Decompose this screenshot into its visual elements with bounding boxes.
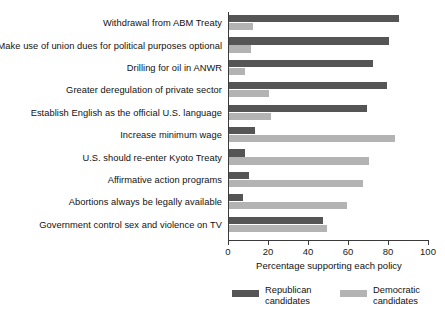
- legend-item-democratic: Democratic candidates: [340, 285, 420, 306]
- category-label: Establish English as the official U.S. l…: [31, 108, 222, 118]
- chart-row: U.S. should re-enter Kyoto Treaty: [0, 146, 445, 168]
- bar-republican: [229, 15, 399, 22]
- chart-row: Increase minimum wage: [0, 124, 445, 146]
- chart-row: Government control sex and violence on T…: [0, 214, 445, 236]
- bar-republican: [229, 172, 249, 179]
- category-label: Increase minimum wage: [120, 130, 222, 140]
- category-label: U.S. should re-enter Kyoto Treaty: [82, 153, 222, 163]
- chart-row: Abortions always be legally available: [0, 191, 445, 213]
- category-label: Withdrawal from ABM Treaty: [103, 18, 222, 28]
- bar-democratic: [229, 202, 347, 209]
- legend-swatch-republican: [232, 290, 259, 297]
- x-axis-line: [228, 240, 429, 241]
- bar-republican: [229, 37, 389, 44]
- bar-democratic: [229, 113, 271, 120]
- chart-row: Withdrawal from ABM Treaty: [0, 12, 445, 34]
- source-note: [236, 318, 445, 325]
- bar-republican: [229, 105, 367, 112]
- chart-row: Affirmative action programs: [0, 169, 445, 191]
- bar-republican: [229, 149, 245, 156]
- legend-item-republican: Republican candidates: [232, 285, 312, 306]
- chart-legend: Republican candidates Democratic candida…: [232, 285, 445, 311]
- category-label: Affirmative action programs: [108, 175, 222, 185]
- chart-row: Establish English as the official U.S. l…: [0, 102, 445, 124]
- bar-democratic: [229, 157, 369, 164]
- category-label: Drilling for oil in ANWR: [127, 63, 222, 73]
- x-axis-tick-label: 60: [343, 246, 354, 257]
- x-axis-tick: [268, 240, 269, 245]
- x-axis-tick: [388, 240, 389, 245]
- category-label: Make use of union dues for political pur…: [0, 41, 222, 51]
- bar-democratic: [229, 180, 363, 187]
- bar-democratic: [229, 225, 327, 232]
- chart-row: Make use of union dues for political pur…: [0, 34, 445, 56]
- x-axis-tick-label: 100: [420, 246, 436, 257]
- bar-republican: [229, 194, 243, 201]
- chart-row: Greater deregulation of private sector: [0, 79, 445, 101]
- bar-democratic: [229, 90, 269, 97]
- y-axis-line: [228, 12, 229, 240]
- bar-democratic: [229, 135, 395, 142]
- legend-label-republican-line1: Republican: [265, 285, 312, 295]
- bar-republican: [229, 217, 323, 224]
- bar-republican: [229, 82, 387, 89]
- x-axis-tick-label: 20: [263, 246, 274, 257]
- legend-label-republican: Republican candidates: [265, 285, 312, 306]
- bar-republican: [229, 60, 373, 67]
- legend-label-republican-line2: candidates: [265, 296, 310, 306]
- x-axis-tick: [348, 240, 349, 245]
- category-label: Greater deregulation of private sector: [66, 85, 222, 95]
- bar-chart: Withdrawal from ABM TreatyMake use of un…: [0, 0, 445, 325]
- bar-democratic: [229, 45, 251, 52]
- bar-democratic: [229, 68, 245, 75]
- x-axis-title: Percentage supporting each policy: [228, 260, 430, 271]
- x-axis-tick-label: 40: [303, 246, 314, 257]
- x-axis-tick-label: 80: [383, 246, 394, 257]
- x-axis-tick: [228, 240, 229, 245]
- category-label: Abortions always be legally available: [69, 197, 222, 207]
- chart-row: Drilling for oil in ANWR: [0, 57, 445, 79]
- legend-label-democratic-line1: Democratic: [373, 285, 420, 295]
- bar-democratic: [229, 23, 253, 30]
- legend-label-democratic-line2: candidates: [373, 296, 418, 306]
- legend-swatch-democratic: [340, 290, 367, 297]
- category-label: Government control sex and violence on T…: [39, 220, 222, 230]
- legend-label-democratic: Democratic candidates: [373, 285, 420, 306]
- x-axis-tick: [308, 240, 309, 245]
- x-axis-tick: [428, 240, 429, 245]
- bar-republican: [229, 127, 255, 134]
- x-axis-tick-label: 0: [225, 246, 230, 257]
